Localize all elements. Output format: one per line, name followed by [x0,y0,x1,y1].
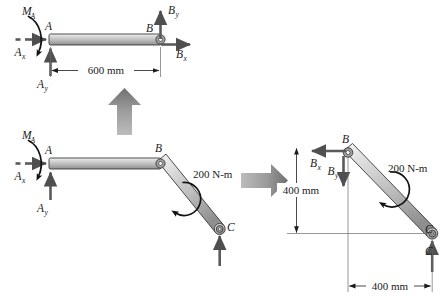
label-By-subscript: y [175,10,180,19]
label-joint-A: A [44,20,53,32]
label-joint-B: B [146,22,153,34]
label-joint-C-right: C [425,223,433,235]
label-Bx-right-subscript: x [317,163,322,172]
label-By-right-subscript: y [334,171,339,180]
label-applied-moment-right: 200 N-m [388,162,428,174]
label-joint-C-middle: C [227,221,235,233]
label-joint-B-middle: B [155,142,162,154]
label-By-right: B [328,165,335,177]
bar-segment-BC [158,154,226,234]
label-Ay-middle-subscript: y [44,208,49,217]
bar-AB [49,34,161,45]
engineering-figure: 600 mm M A A x A y A B B y B x [0,0,440,307]
dimension-600mm: 600 mm [51,47,161,78]
dimension-400mm-horizontal-label: 400 mm [372,280,409,292]
moment-arrow-MA-middle [29,141,42,177]
dimension-600mm-label: 600 mm [88,64,125,76]
label-applied-moment-middle: 200 N-m [193,168,233,180]
label-Ax-middle-subscript: x [21,176,26,185]
label-joint-A-middle: A [44,144,53,156]
label-By: B [168,4,175,16]
bar-segment-AB [49,158,161,169]
label-MA-subscript: A [30,12,36,21]
figure-root: 600 mm M A A x A y A B B y B x [0,0,440,307]
panel-right-fbd-member-BC: 200 N-m 400 mm 400 mm B B x B y C C [277,133,438,293]
bar-BC-right [344,144,438,240]
label-Bx-subscript: x [183,54,188,63]
label-Ax-subscript: x [21,52,26,61]
pin-joint-B-middle [156,159,165,168]
panel-middle-left-fbd-bar-ABC: 200 N-m M A A x A y A B C [14,129,236,266]
label-joint-B-right: B [342,133,349,145]
arrow-up-decompose-shape [108,88,141,135]
panel-top-left-fbd-member-AB: 600 mm M A A x A y A B B y B x [14,4,191,93]
label-force-C-right: C [425,245,433,257]
label-Bx: B [176,48,183,60]
arrow-up-decompose [108,88,141,135]
moment-arrow-MA [29,17,42,53]
pin-joint-B-right [343,148,353,158]
label-MA-middle-subscript: A [30,136,36,145]
label-Bx-right: B [310,157,317,169]
label-Ay-subscript: y [44,84,49,93]
bar-AB-body [49,34,161,45]
dimension-400mm-vertical-label: 400 mm [283,184,320,196]
pin-joint-C-middle [216,226,223,233]
